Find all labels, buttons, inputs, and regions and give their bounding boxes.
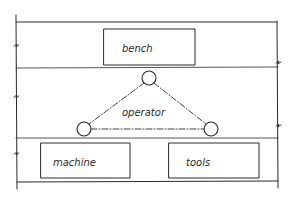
operator-label: operator [122, 107, 166, 118]
machine-box: machine [41, 143, 130, 178]
left-break-mark-1 [14, 44, 19, 47]
zone-divider-1 [16, 67, 278, 68]
bottom-line [17, 181, 278, 182]
machine-label: machine [53, 157, 96, 168]
bench-box: bench [104, 29, 195, 65]
left-break-mark-3 [14, 152, 19, 155]
operator-triangle: operator [77, 71, 218, 136]
workstation-diagram: bench machine tools operator [0, 0, 294, 197]
left-boundary-line [16, 15, 17, 189]
left-break-mark-2 [14, 95, 19, 98]
right-break-mark-2 [276, 124, 281, 127]
tools-label: tools [186, 157, 210, 168]
left-node-circle [77, 122, 91, 136]
tools-box: tools [169, 143, 259, 178]
right-node-circle [204, 122, 218, 136]
right-boundary-line [277, 21, 278, 188]
bench-label: bench [122, 43, 153, 54]
top-node-circle [142, 71, 156, 85]
